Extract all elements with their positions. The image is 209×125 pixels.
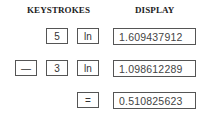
display-value-1: 1.609437912 [113, 28, 196, 45]
key-5[interactable]: 5 [46, 28, 68, 44]
key-ln[interactable]: ln [77, 60, 99, 76]
key-ln[interactable]: ln [77, 28, 99, 44]
display-header: DISPLAY [135, 5, 174, 15]
keystrokes-header: KEYSTROKES [27, 5, 90, 15]
key-equals[interactable]: = [77, 92, 99, 108]
display-value-3: 0.510825623 [113, 92, 196, 109]
display-value-2: 1.098612289 [113, 60, 196, 77]
key-3[interactable]: 3 [46, 60, 68, 76]
key-minus[interactable]: — [15, 60, 37, 76]
